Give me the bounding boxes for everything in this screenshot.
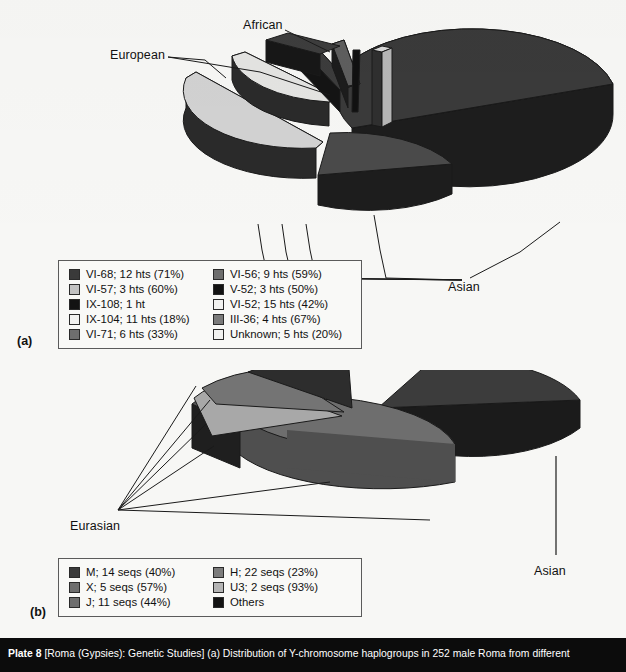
legend-item-label: J; 11 seqs (44%) <box>86 595 171 610</box>
legend-item[interactable]: IX-108; 1 ht <box>69 297 207 312</box>
legend-item-label: U3; 2 seqs (93%) <box>230 580 318 595</box>
legend-item[interactable]: X; 5 seqs (57%) <box>69 580 207 595</box>
legend-item-label: VI-71; 6 hts (33%) <box>86 327 178 342</box>
legend-item[interactable]: Unknown; 5 hts (20%) <box>213 327 351 342</box>
legend-a-grid: VI-68; 12 hts (71%) VI-56; 9 hts (59%) V… <box>69 268 351 341</box>
pie-chart-a: .ln { stroke:#1a1a1a; stroke-width:1; fi… <box>0 0 626 250</box>
legend-swatch-icon <box>69 284 80 295</box>
legend-swatch-icon <box>69 582 80 593</box>
legend-chart-b: M; 14 seqs (40%) H; 22 seqs (23%) X; 5 s… <box>58 558 362 617</box>
slice-upright-light-a <box>372 46 392 127</box>
legend-item-label: VI-56; 9 hts (59%) <box>230 267 322 282</box>
legend-item[interactable]: VI-57; 3 hts (60%) <box>69 282 207 297</box>
legend-item[interactable]: V-52; 3 hts (50%) <box>213 282 351 297</box>
legend-item-label: Others <box>230 595 264 610</box>
legend-item-label: H; 22 seqs (23%) <box>230 565 318 580</box>
legend-item[interactable]: VI-56; 9 hts (59%) <box>213 267 351 282</box>
legend-item-label: VI-68; 12 hts (71%) <box>86 267 184 282</box>
legend-item[interactable]: III-36; 4 hts (67%) <box>213 312 351 327</box>
callout-asian-a: Asian <box>448 280 480 294</box>
plate-caption: Plate 8 [Roma (Gypsies): Genetic Studies… <box>0 638 626 672</box>
legend-item-label: V-52; 3 hts (50%) <box>230 282 318 297</box>
legend-item-label: M; 14 seqs (40%) <box>86 565 175 580</box>
legend-item-label: VI-57; 3 hts (60%) <box>86 282 178 297</box>
legend-swatch-icon <box>69 269 80 280</box>
legend-swatch-icon <box>213 299 224 310</box>
legend-b-grid: M; 14 seqs (40%) H; 22 seqs (23%) X; 5 s… <box>69 566 351 609</box>
legend-item[interactable]: M; 14 seqs (40%) <box>69 565 207 580</box>
legend-item[interactable]: H; 22 seqs (23%) <box>213 565 351 580</box>
legend-swatch-icon <box>69 567 80 578</box>
legend-swatch-icon <box>213 269 224 280</box>
slice-sliver-black-a <box>352 50 360 112</box>
legend-item-label: Unknown; 5 hts (20%) <box>230 327 342 342</box>
legend-swatch-icon <box>69 314 80 325</box>
callout-european: European <box>110 48 165 62</box>
panel-marker-b: (b) <box>30 605 46 619</box>
legend-item-label: IX-108; 1 ht <box>86 297 145 312</box>
legend-swatch-icon <box>213 284 224 295</box>
legend-swatch-icon <box>213 582 224 593</box>
legend-swatch-icon <box>69 597 80 608</box>
legend-swatch-icon <box>69 329 80 340</box>
legend-item-label: III-36; 4 hts (67%) <box>230 312 321 327</box>
legend-item[interactable]: VI-71; 6 hts (33%) <box>69 327 207 342</box>
legend-item-label: IX-104; 11 hts (18%) <box>86 312 190 327</box>
legend-item-label: X; 5 seqs (57%) <box>86 580 167 595</box>
legend-item-label: VI-52; 15 hts (42%) <box>230 297 328 312</box>
plate-page: .ln { stroke:#1a1a1a; stroke-width:1; fi… <box>0 0 626 672</box>
legend-chart-a: VI-68; 12 hts (71%) VI-56; 9 hts (59%) V… <box>58 260 362 349</box>
legend-item[interactable]: J; 11 seqs (44%) <box>69 595 207 610</box>
legend-swatch-icon <box>213 597 224 608</box>
legend-item[interactable]: VI-52; 15 hts (42%) <box>213 297 351 312</box>
legend-item[interactable]: U3; 2 seqs (93%) <box>213 580 351 595</box>
legend-item[interactable]: Others <box>213 595 351 610</box>
legend-swatch-icon <box>69 299 80 310</box>
panel-marker-a: (a) <box>17 334 32 348</box>
caption-text: [Roma (Gypsies): Genetic Studies] (a) Di… <box>42 648 570 659</box>
callout-african: African <box>243 18 283 32</box>
legend-item[interactable]: VI-68; 12 hts (71%) <box>69 267 207 282</box>
legend-swatch-icon <box>213 567 224 578</box>
caption-plate-number: Plate 8 <box>8 648 42 659</box>
legend-swatch-icon <box>213 329 224 340</box>
legend-swatch-icon <box>213 314 224 325</box>
legend-item[interactable]: IX-104; 11 hts (18%) <box>69 312 207 327</box>
callout-asian-b: Asian <box>534 564 566 578</box>
callout-eurasian: Eurasian <box>70 519 120 533</box>
